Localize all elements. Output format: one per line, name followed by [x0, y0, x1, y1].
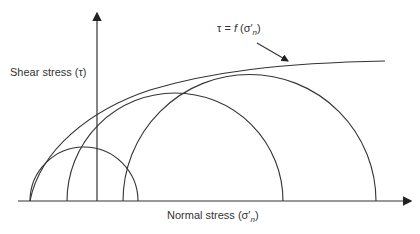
mohr-diagram	[0, 0, 420, 234]
mohr-circle-medium	[67, 93, 283, 201]
envelope-pointer-arrow	[257, 43, 288, 61]
envelope-label-close: )	[257, 22, 261, 34]
envelope-label-tau: τ =	[217, 22, 234, 34]
x-axis-label-text: Normal stress (σ	[167, 209, 248, 221]
y-axis-label: Shear stress (τ)	[10, 66, 86, 78]
mohr-circle-small	[30, 147, 138, 201]
x-axis-label: Normal stress (σ′n)	[167, 209, 259, 224]
x-axis-label-close: )	[255, 209, 259, 221]
envelope-label: τ = f (σ′n)	[217, 22, 261, 37]
envelope-label-arg: (σ	[237, 22, 251, 34]
